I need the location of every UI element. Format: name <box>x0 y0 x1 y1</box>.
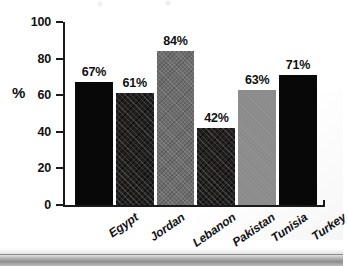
y-tick-label-20: 20 <box>37 161 51 175</box>
bar-value-label-tunisia: 63% <box>245 73 269 87</box>
y-tick-label-80: 80 <box>37 52 51 66</box>
bar-slot-pakistan: 42% <box>197 22 235 205</box>
x-axis-end-tick <box>323 200 325 207</box>
x-category-label-tunisia: Tunisia <box>269 210 311 245</box>
bar-slot-lebanon: 84% <box>157 22 195 205</box>
y-tick-0: 0 <box>56 204 63 206</box>
bar-slot-jordan: 61% <box>116 22 154 205</box>
y-axis-title: % <box>12 84 25 101</box>
page-bottom-band <box>0 248 343 266</box>
scan-artifact <box>90 0 270 8</box>
bar-lebanon[interactable]: 84% <box>157 51 195 205</box>
bar-value-label-jordan: 61% <box>123 76 147 90</box>
bar-value-label-pakistan: 42% <box>204 111 228 125</box>
bar-slot-turkey: 71% <box>279 22 317 205</box>
y-tick-label-40: 40 <box>37 125 51 139</box>
plot-area: 020406080100 67%61%84%42%63%71% <box>63 22 325 207</box>
x-axis-line <box>63 205 325 207</box>
y-tick-60: 60 <box>56 94 63 96</box>
x-category-label-pakistan: Pakistan <box>230 210 278 249</box>
y-tick-label-60: 60 <box>37 88 51 102</box>
bar-egypt[interactable]: 67% <box>75 82 113 205</box>
y-tick-80: 80 <box>56 58 63 60</box>
x-category-label-lebanon: Lebanon <box>190 210 238 250</box>
x-category-label-jordan: Jordan <box>147 210 187 244</box>
bar-turkey[interactable]: 71% <box>279 75 317 205</box>
y-axis-line <box>63 22 65 207</box>
bar-value-label-turkey: 71% <box>286 58 310 72</box>
bar-series: 67%61%84%42%63%71% <box>75 22 317 205</box>
bar-value-label-lebanon: 84% <box>163 34 187 48</box>
bar-slot-tunisia: 63% <box>238 22 276 205</box>
y-tick-40: 40 <box>56 131 63 133</box>
x-category-label-egypt: Egypt <box>106 210 141 240</box>
y-tick-20: 20 <box>56 167 63 169</box>
y-tick-label-100: 100 <box>31 15 51 29</box>
bar-slot-egypt: 67% <box>75 22 113 205</box>
page-bottom-rule <box>0 254 343 255</box>
x-category-label-turkey: Turkey <box>309 210 348 244</box>
y-tick-label-0: 0 <box>44 198 51 212</box>
y-tick-100: 100 <box>56 21 63 23</box>
bar-value-label-egypt: 67% <box>82 65 106 79</box>
bar-pakistan[interactable]: 42% <box>197 128 235 205</box>
bar-tunisia[interactable]: 63% <box>238 90 276 205</box>
bar-jordan[interactable]: 61% <box>116 93 154 205</box>
